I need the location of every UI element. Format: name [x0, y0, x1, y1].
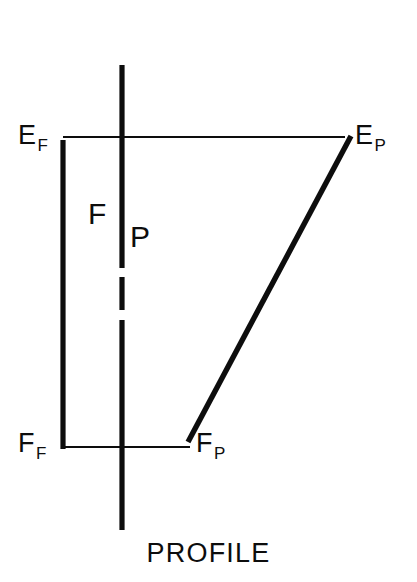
label-e-f-subscript: F — [38, 136, 48, 155]
diagram-vector-surface — [0, 0, 417, 582]
label-e-f: EF — [18, 122, 47, 149]
label-f-p-subscript: P — [214, 444, 225, 463]
label-f-f: FF — [18, 430, 45, 457]
label-e-f-base: E — [18, 120, 37, 150]
label-f-p: FP — [196, 430, 224, 457]
profile-diagram-canvas: EF EP FF FP F P PROFILE — [0, 0, 417, 582]
label-f-f-subscript: F — [36, 444, 46, 463]
figure-caption: PROFILE — [0, 538, 417, 569]
label-p-region: P — [130, 222, 151, 252]
label-f-f-base: F — [18, 428, 35, 458]
label-f-region: F — [88, 199, 107, 229]
label-e-p-subscript: P — [375, 136, 386, 155]
label-f-p-base: F — [196, 428, 213, 458]
label-p-region-base: P — [130, 220, 151, 253]
profile-inclined-line — [188, 136, 351, 442]
label-e-p-base: E — [355, 120, 374, 150]
label-e-p: EP — [355, 122, 385, 149]
label-f-region-base: F — [88, 197, 107, 230]
